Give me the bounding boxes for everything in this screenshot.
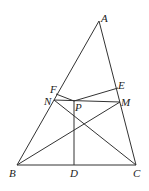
label-C: C: [133, 167, 141, 179]
segment-NC: [54, 100, 136, 165]
label-A: A: [100, 12, 108, 24]
geometry-diagram: A B C D E F M N P: [0, 0, 149, 191]
segment-AB: [17, 21, 99, 165]
label-F: F: [49, 83, 57, 95]
segment-NM: [54, 100, 120, 102]
label-N: N: [43, 95, 52, 107]
label-P: P: [74, 101, 82, 113]
segment-PE: [74, 88, 118, 101]
segment-AC: [99, 21, 136, 165]
label-D: D: [69, 167, 78, 179]
label-E: E: [117, 79, 125, 91]
label-B: B: [9, 167, 16, 179]
label-M: M: [120, 96, 131, 108]
